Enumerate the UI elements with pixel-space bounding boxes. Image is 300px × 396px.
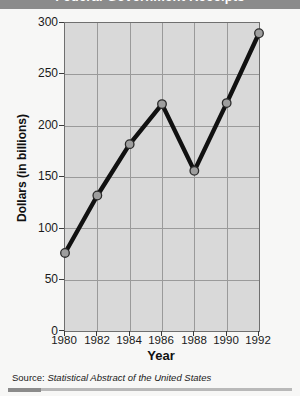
- data-point: [190, 167, 199, 176]
- y-tick-label: 50: [18, 273, 58, 285]
- y-tick-label: 250: [18, 67, 58, 79]
- series-markers: [61, 29, 264, 257]
- data-point: [93, 191, 102, 200]
- y-axis-title: Dollars (in billions): [15, 98, 29, 238]
- data-point: [125, 140, 134, 149]
- data-point: [222, 99, 231, 108]
- bottom-rule: [8, 388, 292, 391]
- bottom-rule-accent: [8, 388, 41, 392]
- chart-figure: 300 250 200 150 100 50 0 Dollars (in bil…: [0, 9, 300, 371]
- chart-page: Federal Government Receipts 300 250 200 …: [0, 0, 300, 396]
- plot-area: [64, 22, 260, 332]
- header-band: Federal Government Receipts: [0, 0, 300, 9]
- source-label: Source:: [12, 372, 45, 383]
- x-tick-label: 1992: [238, 335, 278, 347]
- source-note: Source: Statistical Abstract of the Unit…: [12, 372, 211, 383]
- data-point: [158, 100, 167, 109]
- header-title: Federal Government Receipts: [0, 0, 300, 4]
- source-title: Statistical Abstract of the United State…: [47, 372, 211, 383]
- data-point: [255, 29, 264, 38]
- data-series: [57, 15, 267, 339]
- data-point: [61, 249, 70, 258]
- series-line: [65, 33, 259, 253]
- x-axis-title: Year: [64, 348, 258, 363]
- y-tick-label: 300: [18, 16, 58, 28]
